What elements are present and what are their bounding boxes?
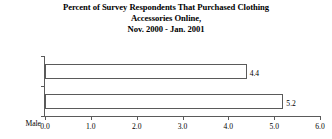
chart-title-line-1: Percent of Survey Respondents That Purch… xyxy=(0,2,332,13)
category-axis-labels: Male Female xyxy=(0,56,41,116)
x-axis-tick-label: 0.0 xyxy=(33,122,57,131)
x-axis-tick xyxy=(274,117,275,120)
x-axis-tick xyxy=(91,117,92,120)
bar-female xyxy=(45,94,283,109)
chart-title: Percent of Survey Respondents That Purch… xyxy=(0,2,332,36)
plot-area xyxy=(45,56,320,116)
x-axis-tick xyxy=(228,117,229,120)
x-axis-tick-label: 5.0 xyxy=(262,122,286,131)
x-axis-tick-label: 3.0 xyxy=(171,122,195,131)
x-axis-tick xyxy=(45,117,46,120)
bar-value-female: 5.2 xyxy=(286,100,296,108)
x-axis-tick xyxy=(320,117,321,120)
x-axis-tick xyxy=(137,117,138,120)
x-axis-tick-label: 2.0 xyxy=(125,122,149,131)
bar-value-male: 4.4 xyxy=(250,70,260,78)
x-axis-tick-label: 6.0 xyxy=(308,122,332,131)
bar-male xyxy=(45,64,247,79)
x-axis-tick xyxy=(183,117,184,120)
chart-title-line-2: Accessories Online, xyxy=(0,13,332,24)
x-axis-tick-label: 4.0 xyxy=(216,122,240,131)
bar-chart: Percent of Survey Respondents That Purch… xyxy=(0,0,332,139)
chart-title-line-3: Nov. 2000 - Jan. 2001 xyxy=(0,24,332,35)
x-axis-tick-label: 1.0 xyxy=(79,122,103,131)
